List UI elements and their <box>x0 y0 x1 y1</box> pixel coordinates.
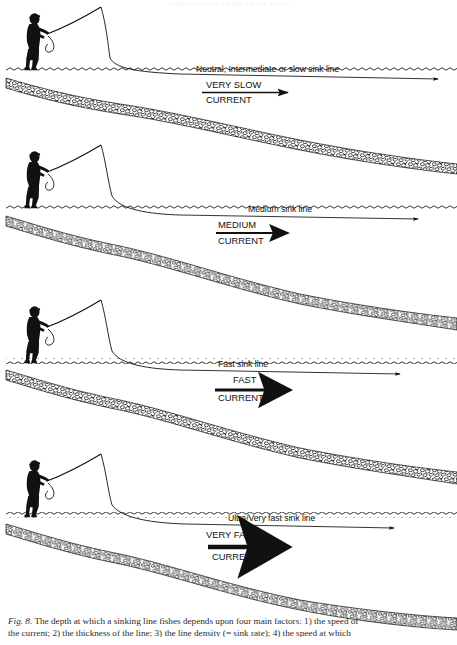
line-loop <box>46 36 54 52</box>
sink-line-label: Neutral, Intermediate or slow sink line <box>196 64 340 74</box>
line-loop <box>46 483 54 499</box>
current-label: CURRENT <box>218 235 264 246</box>
panel-fast: Fast sink line FAST CURRENT <box>6 300 457 484</box>
sunk-fly-line <box>180 370 400 374</box>
panel-very-slow: Neutral, Intermediate or slow sink line … <box>6 7 457 174</box>
water-surface-line <box>6 203 457 209</box>
riverbed-band <box>6 370 457 484</box>
sink-line-label: Ultra/Very fast sink line <box>228 513 316 523</box>
angler-silhouette <box>24 151 49 208</box>
fishing-rod <box>47 7 101 34</box>
sunk-fly-line <box>185 524 394 528</box>
current-speed-label: VERY FAST <box>206 529 258 540</box>
current-label: CURRENT <box>212 551 258 562</box>
current-speed-label: FAST <box>233 374 257 385</box>
sink-line-label: Fast sink line <box>218 359 268 369</box>
panel-medium: Medium sink line MEDIUM CURRENT <box>6 145 457 330</box>
angler-silhouette <box>24 13 49 70</box>
figure-caption-line-2: the current; 2) the thickness of the lin… <box>8 628 449 637</box>
sink-line-label: Medium sink line <box>248 204 312 214</box>
figure-number: Fig. 8. <box>8 616 32 626</box>
sunk-fly-line <box>180 215 418 219</box>
panel-very-fast: Ultra/Very fast sink line VERY FAST CURR… <box>6 454 457 630</box>
current-speed-label: VERY SLOW <box>206 79 262 90</box>
fly-line <box>101 7 180 74</box>
current-label: CURRENT <box>206 94 252 105</box>
figure-caption-line-1: The depth at which a sinking line fishes… <box>34 616 358 626</box>
fishing-rod <box>47 300 101 327</box>
figure-sinking-lines: Neutral, Intermediate or slow sink line … <box>0 0 457 645</box>
line-loop <box>46 329 54 345</box>
fishing-rod <box>47 145 101 172</box>
figure-caption: Fig. 8. The depth at which a sinking lin… <box>8 616 449 637</box>
line-loop <box>46 174 54 190</box>
angler-silhouette <box>24 306 49 363</box>
fishing-rod <box>47 454 101 481</box>
current-speed-label: MEDIUM <box>218 219 256 230</box>
current-label: CURRENT <box>218 392 264 403</box>
angler-silhouette <box>24 460 49 517</box>
